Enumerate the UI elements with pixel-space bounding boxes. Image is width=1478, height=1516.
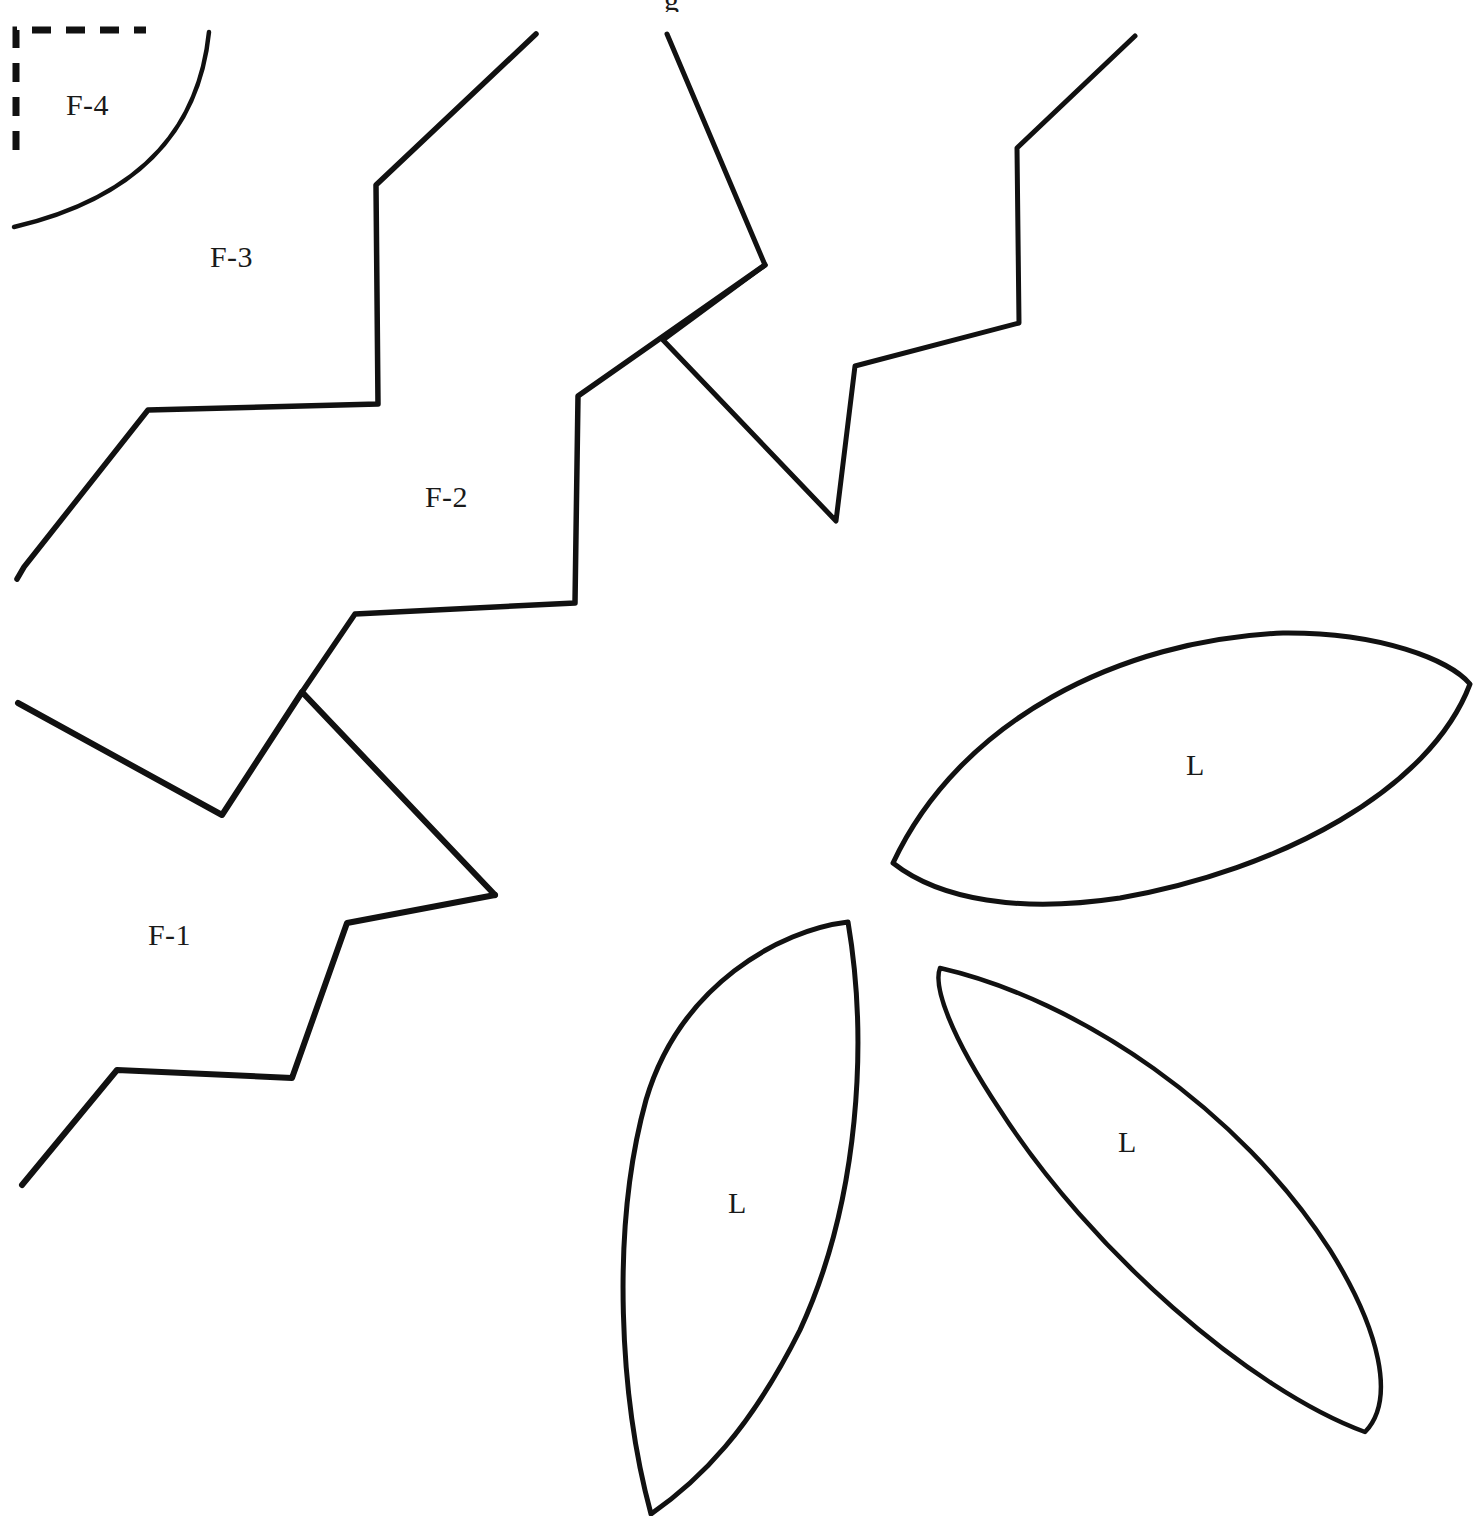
label-f-2: F-2 xyxy=(425,482,468,512)
label-f-3: F-3 xyxy=(210,242,253,272)
label-leaf-lower-right: L xyxy=(1118,1127,1137,1157)
figure-linework xyxy=(0,0,1478,1516)
label-f-1: F-1 xyxy=(148,920,191,950)
label-leaf-upper-right: L xyxy=(1186,750,1205,780)
f1-lower-polyline xyxy=(22,895,495,1185)
figure-canvas: g F-4 F-3 F-2 F-1 L L L xyxy=(0,0,1478,1516)
f1-upper-left-polyline xyxy=(18,692,495,895)
label-f-4: F-4 xyxy=(66,90,109,120)
leaf-outline-lower-right xyxy=(938,968,1380,1432)
label-leaf-lower-left: L xyxy=(728,1188,747,1218)
f2-f1-boundary-polyline xyxy=(302,265,765,692)
leaf-outline-upper-right xyxy=(893,633,1470,904)
caption-descender-sliver: g xyxy=(664,0,679,12)
f4-arc-boundary xyxy=(14,32,209,227)
f2-upper-right-polyline xyxy=(663,34,1135,521)
